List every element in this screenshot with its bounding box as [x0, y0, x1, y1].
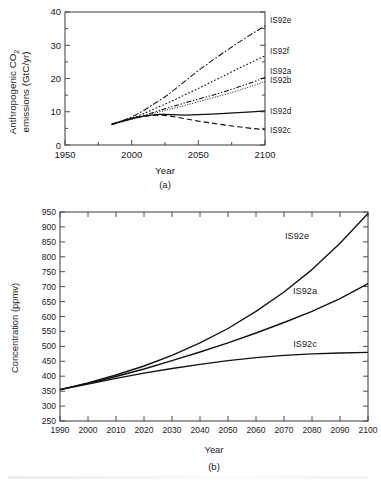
panel-b-xtick-1990: 1990 — [50, 425, 69, 435]
panel-b-x-axis-title: Year — [205, 444, 224, 455]
panel-a-ytick-40: 40 — [50, 6, 61, 17]
panel-b-xtick-2020: 2020 — [134, 425, 153, 435]
panel-b-curve-is92a — [60, 284, 368, 390]
panel-a-x-tickmarks — [65, 140, 265, 145]
panel-b-ytick-400: 400 — [42, 371, 57, 381]
panel-a-y-tickmarks — [65, 12, 265, 145]
panel-a-series-labels: IS92e IS92f IS92a IS92b IS92d IS92c — [270, 16, 292, 136]
panel-b-ytick-550: 550 — [42, 326, 57, 336]
panel-b-xtick-2040: 2040 — [190, 425, 209, 435]
panel-b-xtick-2070: 2070 — [274, 425, 293, 435]
panel-a-ytick-20: 20 — [50, 73, 61, 84]
panel-b-xtick-2050: 2050 — [218, 425, 237, 435]
panel-b-ytick-850: 850 — [42, 237, 57, 247]
panel-b-xtick-2000: 2000 — [78, 425, 97, 435]
panel-b-ytick-800: 800 — [42, 252, 57, 262]
panel-b-ytick-950: 950 — [42, 207, 57, 217]
panel-b-xtick-2100: 2100 — [358, 425, 377, 435]
panel-b-ytick-350: 350 — [42, 386, 57, 396]
panel-a-xtick-2100: 2100 — [254, 149, 275, 160]
panel-b-y-tick-labels: 250 300 350 400 450 500 550 600 650 700 … — [42, 207, 57, 426]
panel-a-curve-is92d — [112, 111, 265, 125]
panel-b-ytick-300: 300 — [42, 401, 57, 411]
panel-a-y-axis-title: Anthropogenic CO2 emissions (GtC/yr) — [7, 50, 31, 135]
panel-b-xtick-2080: 2080 — [302, 425, 321, 435]
panel-b-concentration-chart: Concentration (ppmv) 250 300 350 400 450… — [0, 190, 381, 482]
panel-a-svg: Anthropogenic CO2 emissions (GtC/yr) 0 1… — [0, 0, 381, 190]
panel-a-label-is92e: IS92e — [270, 16, 292, 25]
panel-b-y-tickmarks — [60, 212, 368, 421]
panel-b-ytick-750: 750 — [42, 267, 57, 277]
panel-b-series-labels: IS92e IS92a IS92c — [285, 231, 318, 349]
panel-b-label-is92c: IS92c — [293, 339, 317, 349]
panel-b-xtick-2090: 2090 — [330, 425, 349, 435]
panel-a-emissions-chart: Anthropogenic CO2 emissions (GtC/yr) 0 1… — [0, 0, 381, 190]
panel-a-label-is92c: IS92c — [270, 126, 291, 135]
figure-container: Anthropogenic CO2 emissions (GtC/yr) 0 1… — [0, 0, 381, 482]
panel-b-curve-is92e — [60, 214, 368, 390]
panel-b-xtick-2010: 2010 — [106, 425, 125, 435]
panel-b-series-group — [60, 214, 368, 390]
panel-a-ylabel-line2: emissions (GtC/yr) — [20, 51, 31, 132]
panel-a-curve-is92f — [112, 56, 265, 125]
panel-a-label-is92f: IS92f — [270, 47, 290, 56]
panel-a-xtick-2000: 2000 — [121, 149, 142, 160]
panel-b-label-is92a: IS92a — [293, 286, 318, 296]
panel-a-subcaption: (a) — [159, 179, 171, 190]
panel-a-xtick-2050: 2050 — [188, 149, 209, 160]
panel-b-subcaption: (b) — [208, 461, 220, 472]
panel-a-ytick-10: 10 — [50, 106, 61, 117]
panel-a-ylabel-subscript: 2 — [13, 50, 20, 54]
panel-a-ylabel-line1: Anthropogenic CO — [7, 53, 18, 134]
panel-b-ytick-700: 700 — [42, 282, 57, 292]
panel-a-label-is92a: IS92a — [270, 67, 292, 76]
panel-b-curve-is92c — [60, 352, 368, 389]
panel-b-ytick-500: 500 — [42, 341, 57, 351]
panel-b-x-tick-labels: 1990 2000 2010 2020 2030 2040 2050 2060 … — [50, 425, 377, 435]
panel-a-label-is92d: IS92d — [270, 107, 292, 116]
panel-b-x-tickmarks — [60, 212, 368, 421]
panel-b-xtick-2030: 2030 — [162, 425, 181, 435]
panel-b-ytick-900: 900 — [42, 222, 57, 232]
panel-a-label-is92b: IS92b — [270, 76, 292, 85]
panel-a-x-tick-labels: 1950 2000 2050 2100 — [54, 149, 275, 160]
panel-b-label-is92e: IS92e — [285, 231, 309, 241]
panel-b-ytick-650: 650 — [42, 297, 57, 307]
panel-a-xtick-1950: 1950 — [54, 149, 75, 160]
panel-a-plot-frame — [65, 12, 265, 145]
panel-a-y-tick-labels: 0 10 20 30 40 — [50, 6, 61, 150]
panel-b-y-axis-title: Concentration (ppmv) — [9, 283, 20, 373]
panel-b-ytick-600: 600 — [42, 312, 57, 322]
panel-b-ytick-450: 450 — [42, 356, 57, 366]
panel-b-xtick-2060: 2060 — [246, 425, 265, 435]
cropped-caption-artifact — [8, 476, 368, 479]
panel-a-x-axis-title: Year — [155, 165, 176, 176]
panel-b-plot-frame — [60, 212, 368, 421]
panel-a-series-group — [112, 26, 265, 130]
panel-a-curve-is92e — [112, 26, 265, 125]
svg-text:Anthropogenic CO2: Anthropogenic CO2 — [7, 50, 20, 135]
panel-b-svg: Concentration (ppmv) 250 300 350 400 450… — [0, 190, 381, 482]
panel-a-ytick-30: 30 — [50, 40, 61, 51]
